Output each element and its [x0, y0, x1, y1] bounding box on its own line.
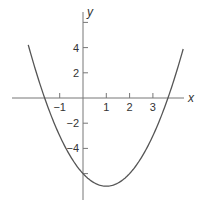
x-tick-label: 2 — [127, 101, 133, 113]
x-tick-label: 3 — [150, 101, 156, 113]
axes — [12, 12, 184, 200]
parabola-curve — [28, 45, 183, 186]
x-tick-label: −1 — [53, 101, 66, 113]
x-tick-label: 1 — [103, 101, 109, 113]
y-tick-label: 4 — [73, 42, 79, 54]
parabola-plot: −1123−4−224 x y — [0, 0, 199, 203]
x-axis-label: x — [187, 91, 195, 105]
y-tick-label: −2 — [66, 117, 79, 129]
y-tick-label: 2 — [73, 67, 79, 79]
y-axis-label: y — [86, 5, 94, 19]
